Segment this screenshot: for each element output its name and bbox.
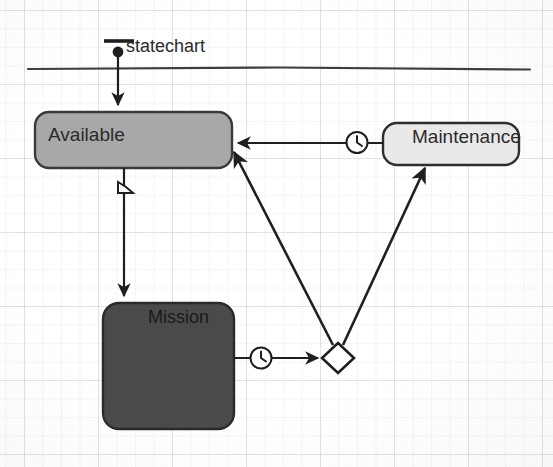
clock-icon-maintenance-transition xyxy=(347,132,368,153)
diagram-vector-layer xyxy=(0,0,553,467)
transition-junction-to-maintenance[interactable] xyxy=(343,168,425,345)
state-mission[interactable] xyxy=(103,303,234,429)
initial-node xyxy=(113,47,124,58)
frame-divider-line xyxy=(28,68,530,70)
statechart-diagram-canvas: statechart Available Maintenance Mission xyxy=(0,0,553,467)
junction-node[interactable] xyxy=(322,343,354,373)
clock-icon-mission-transition xyxy=(251,348,272,369)
transition-junction-to-available[interactable] xyxy=(234,152,333,345)
state-maintenance[interactable] xyxy=(383,123,519,165)
signal-event-icon xyxy=(118,182,133,193)
state-available[interactable] xyxy=(35,112,232,168)
